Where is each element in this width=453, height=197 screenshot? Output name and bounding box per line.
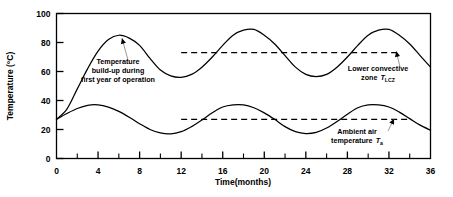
buildup-annotation-line-1: Temperature	[96, 57, 139, 66]
lcz-annotation-subscript: LCZ	[385, 77, 396, 83]
y-tick-label: 0	[46, 154, 51, 164]
buildup-annotation-line-3: first year of operation	[81, 75, 155, 84]
x-tick-label: 20	[260, 166, 270, 176]
x-tick-label: 16	[218, 166, 228, 176]
y-tick-label: 60	[41, 67, 51, 77]
x-tick-label: 0	[54, 166, 59, 176]
chart-figure: 020406080100 04812162024283236 Temperatu…	[0, 0, 453, 197]
buildup-annotation-line-2: build-up during	[92, 66, 145, 75]
lcz-annotation-zone-word: zone	[361, 73, 377, 82]
y-tick-label: 40	[41, 96, 51, 106]
ambient-annotation-line-2: temperatureTa	[331, 136, 383, 146]
x-tick-label: 32	[384, 166, 394, 176]
x-tick-label: 12	[176, 166, 186, 176]
lcz-annotation-line-1: Lower convective	[348, 64, 408, 73]
x-tick-label: 28	[343, 166, 353, 176]
y-tick-label: 80	[41, 38, 51, 48]
ambient-annotation: Ambient air temperatureTa	[331, 127, 383, 146]
ambient-annotation-subscript: a	[380, 140, 383, 146]
ambient-annotation-word: temperature	[331, 136, 373, 145]
x-axis-title: Time(months)	[215, 177, 271, 187]
x-tick-label: 4	[96, 166, 101, 176]
x-tick-label: 36	[426, 166, 436, 176]
x-tick-label: 24	[301, 166, 311, 176]
y-tick-label: 20	[41, 125, 51, 135]
x-tick-label: 8	[137, 166, 142, 176]
ambient-annotation-line-1: Ambient air	[337, 127, 377, 136]
y-tick-label: 100	[36, 9, 50, 19]
temperature-vs-time-chart: 020406080100 04812162024283236 Temperatu…	[0, 0, 453, 197]
y-axis-title: Temperature (°C)	[5, 52, 15, 121]
